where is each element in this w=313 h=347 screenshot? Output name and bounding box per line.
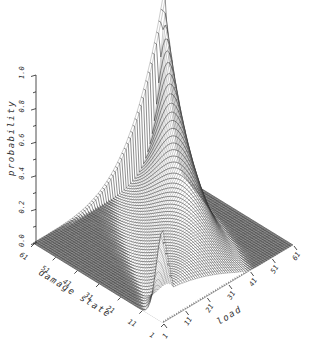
damage-tick <box>96 284 99 287</box>
z-tick <box>31 109 36 111</box>
z-tick-label: 0.4 <box>18 167 26 180</box>
z-minor-tick <box>33 159 36 160</box>
load-tick <box>294 246 297 250</box>
surface-mesh <box>33 0 293 323</box>
z-tick-label: 0.2 <box>18 201 26 214</box>
damage-tick-label: 61 <box>18 251 29 262</box>
z-minor-tick <box>33 125 36 126</box>
damage-tick <box>118 297 121 300</box>
z-tick-label: 0.0 <box>18 234 26 247</box>
z-minor-tick <box>33 92 36 93</box>
damage-tick <box>53 257 56 260</box>
load-tick <box>207 298 210 302</box>
load-tick-label: 51 <box>269 264 280 275</box>
z-minor-tick <box>33 193 36 194</box>
damage-tick-label: 11 <box>126 318 137 329</box>
load-tick <box>186 311 189 315</box>
load-tick <box>229 285 232 289</box>
load-tick <box>164 324 167 328</box>
z-tick <box>31 75 36 77</box>
load-tick-label: 61 <box>291 251 302 262</box>
damage-tick <box>161 324 164 327</box>
load-tick-label: 11 <box>183 316 194 327</box>
z-tick <box>31 142 36 144</box>
z-minor-tick <box>33 226 36 227</box>
load-tick <box>272 259 275 263</box>
load-tick-label: 41 <box>248 277 259 288</box>
z-tick <box>31 176 36 178</box>
load-axis-title: load <box>215 304 244 327</box>
damage-tick-label: 1 <box>148 331 156 340</box>
z-tick-label: 0.6 <box>18 134 26 147</box>
load-tick-label: 31 <box>225 290 237 302</box>
load-tick-label: 21 <box>204 303 215 314</box>
load-tick-label: 1 <box>161 332 170 340</box>
load-tick <box>251 272 254 276</box>
damage-tick <box>139 311 142 314</box>
damage-tick <box>74 271 77 274</box>
z-tick-label: 1.0 <box>18 66 26 79</box>
z-tick-label: 0.8 <box>18 100 26 113</box>
z-axis-title: probability <box>6 100 16 177</box>
surface-chart: 0.00.20.40.60.81.01112131415161111213141… <box>0 0 313 347</box>
z-tick <box>31 209 36 211</box>
